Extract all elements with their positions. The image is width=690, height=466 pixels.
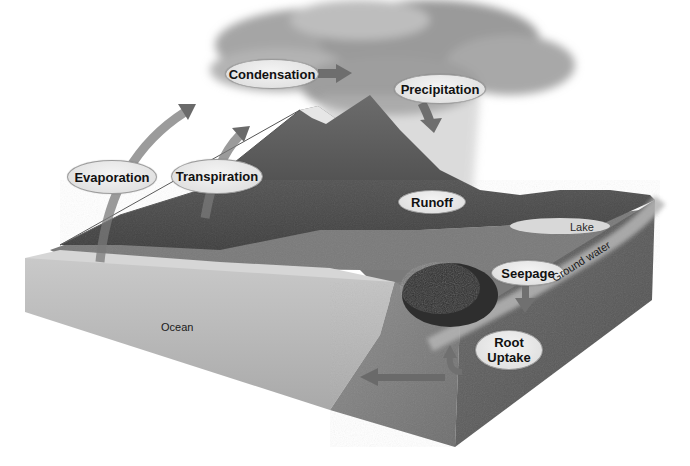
root-uptake-label: Root Uptake [475,330,543,370]
evaporation-label: Evaporation [67,160,157,194]
runoff-label: Runoff [398,190,466,214]
transpiration-label: Transpiration [171,159,263,194]
water-cycle-illustration [0,0,690,466]
precipitation-label: Precipitation [394,74,486,104]
lake [510,218,610,234]
condensation-label: Condensation [225,59,319,89]
lake-label: Lake [570,221,594,233]
ocean-label: Ocean [161,321,193,333]
